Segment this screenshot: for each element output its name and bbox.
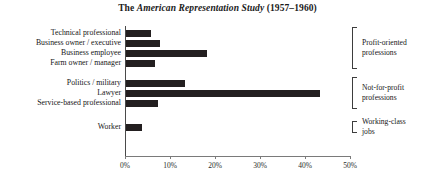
category-label: Worker <box>98 122 121 131</box>
tick-mark <box>215 156 216 159</box>
group-label-line1: Not-for-profit <box>362 83 404 93</box>
bar <box>126 80 185 87</box>
bar <box>126 100 158 107</box>
group-bracket <box>352 77 357 109</box>
group-label: Profit-orientedprofessions <box>362 38 407 57</box>
chart-figure: The American Representation Study (1957–… <box>0 0 435 177</box>
tick-label: 10% <box>163 161 177 170</box>
bar <box>126 90 320 97</box>
bar <box>126 50 207 57</box>
tick-mark <box>350 156 351 159</box>
chart-title-lead: The <box>118 3 137 13</box>
tick-label: 20% <box>208 161 222 170</box>
group-bracket <box>352 121 357 133</box>
tick-label: 50% <box>343 161 357 170</box>
value-axis-line <box>125 156 350 157</box>
tick-mark <box>125 156 126 159</box>
group-label-line2: professions <box>362 48 407 58</box>
category-label: Farm owner / manager <box>50 58 121 67</box>
group-label-line2: professions <box>362 93 404 103</box>
bar <box>126 40 160 47</box>
chart-title-italic: American Representation Study <box>137 3 264 13</box>
group-label: Not-for-profitprofessions <box>362 83 404 102</box>
category-label: Lawyer <box>97 88 121 97</box>
tick-mark <box>305 156 306 159</box>
category-label: Technical professional <box>51 28 121 37</box>
group-bracket <box>352 27 357 69</box>
group-label-line2: jobs <box>362 127 406 137</box>
tick-label: 30% <box>253 161 267 170</box>
bar <box>126 60 155 67</box>
tick-label: 40% <box>298 161 312 170</box>
bar <box>126 30 151 37</box>
category-label: Service-based professional <box>37 98 121 107</box>
plot-area: 0%10%20%30%40%50% <box>125 26 350 156</box>
tick-mark <box>170 156 171 159</box>
chart-title: The American Representation Study (1957–… <box>0 3 435 13</box>
category-axis-labels: Technical professionalBusiness owner / e… <box>0 26 121 156</box>
bar <box>126 124 142 131</box>
group-label-line1: Working-class <box>362 117 406 127</box>
tick-mark <box>260 156 261 159</box>
category-label: Business owner / executive <box>36 38 121 47</box>
group-brackets: Profit-orientedprofessionsNot-for-profit… <box>352 26 435 156</box>
chart-title-trail: (1957–1960) <box>264 3 317 13</box>
group-label: Working-classjobs <box>362 117 406 136</box>
category-label: Politics / military <box>67 78 121 87</box>
group-label-line1: Profit-oriented <box>362 38 407 48</box>
tick-label: 0% <box>120 161 130 170</box>
category-label: Business employee <box>61 48 121 57</box>
